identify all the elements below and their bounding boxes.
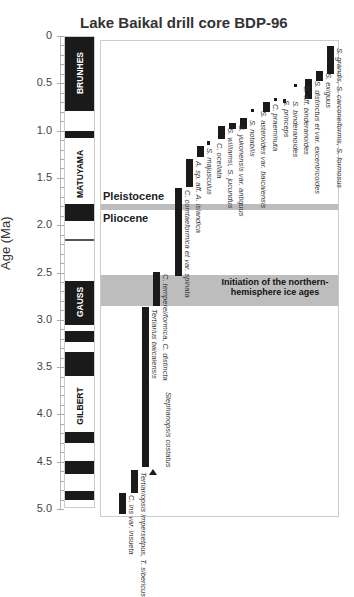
species-label: S. binderanoides — [291, 101, 300, 157]
y-tick — [57, 83, 64, 84]
normal-polarity-interval — [65, 432, 94, 442]
y-tick — [57, 320, 64, 321]
y-tick-label: 1.5 — [22, 171, 52, 183]
y-tick — [57, 462, 64, 463]
range-bar — [316, 71, 323, 81]
pliocene-label: Pliocene — [103, 212, 148, 224]
pleistocene-pliocene-boundary — [101, 204, 338, 210]
species-label: S. princeps — [282, 100, 291, 138]
chron-label-gilbert: GILBERT — [75, 387, 85, 424]
y-tick-label: 4.0 — [22, 407, 52, 419]
species-label: C. temperei/formica, C. distincta — [161, 274, 170, 381]
pleistocene-label: Pleistocene — [103, 190, 164, 202]
species-label: C. praeminuta — [271, 104, 280, 151]
range-bar — [251, 109, 254, 112]
normal-polarity-interval — [65, 204, 94, 221]
species-label: S. asteroides var. baicalensis — [259, 111, 268, 208]
range-bar — [153, 272, 160, 306]
normal-polarity-interval — [65, 331, 94, 341]
species-label: S. majusculus — [205, 148, 214, 195]
chron-label-matuyama: MATUYAMA — [75, 150, 85, 198]
normal-polarity-interval — [65, 491, 94, 500]
species-label: S. distinctus et var. excentricoides — [313, 81, 322, 194]
y-tick-label: 4.5 — [22, 455, 52, 467]
plot-area: Initiation of the northern-hemisphere ic… — [100, 40, 339, 517]
species-label: C. comtaeformica et var. spinata — [183, 190, 192, 298]
range-bar — [142, 307, 149, 468]
species-label: S. grandis, S. carconeiformis, S. formos… — [335, 48, 344, 188]
normal-polarity-interval — [65, 461, 94, 474]
normal-polarity-interval — [65, 352, 94, 376]
chart-title: Lake Baikal drill core BDP-96 — [80, 14, 288, 31]
y-tick — [57, 367, 64, 368]
range-bar — [207, 141, 210, 145]
range-bar — [327, 46, 334, 73]
y-tick-label: 1.0 — [22, 124, 52, 136]
species-label: S. notabilis — [248, 120, 257, 157]
y-axis-label: Age (Ma) — [0, 217, 13, 270]
y-tick-label: 3.5 — [22, 360, 52, 372]
y-tick-label: 2.0 — [22, 218, 52, 230]
species-label: Tertiarius baicalensis — [150, 309, 159, 379]
species-label: Stephanopsis costatus — [164, 392, 173, 467]
species-label: Tertiariopsis impersetpus, T. sibericus — [139, 472, 148, 597]
y-tick-label: 0 — [22, 29, 52, 41]
chron-label-gauss: GAUSS — [75, 287, 85, 317]
y-tick — [57, 273, 64, 274]
range-bar — [131, 470, 138, 493]
y-tick-label: 2.5 — [22, 266, 52, 278]
y-tick — [57, 178, 64, 179]
y-tick — [57, 414, 64, 415]
y-tick — [57, 225, 64, 226]
range-bar — [218, 126, 225, 139]
range-bar — [175, 188, 182, 276]
species-label: A. sp. aff. A. islandica — [194, 161, 203, 233]
polarity-column: BRUNHESMATUYAMAGAUSSGILBERT — [64, 36, 95, 508]
normal-polarity-interval — [65, 239, 94, 241]
ice-age-label: Initiation of the northern-hemisphere ic… — [211, 277, 339, 297]
range-bar — [274, 98, 277, 101]
y-tick-label: 3.0 — [22, 313, 52, 325]
species-label: S. yukonensis var. antiquus — [237, 125, 246, 216]
y-tick-label: 5.0 — [22, 502, 52, 514]
species-label: C. ocellata — [215, 143, 224, 178]
range-bar — [119, 493, 126, 514]
y-minor-tick — [60, 509, 64, 510]
species-label: C. ins var. insueta — [127, 495, 136, 555]
range-bar — [186, 159, 193, 187]
range-bar — [294, 84, 297, 87]
y-tick-label: 0.5 — [22, 76, 52, 88]
chron-label-brunhes: BRUNHES — [75, 52, 85, 94]
species-label: S. exiguus — [324, 73, 333, 108]
species-label: S. aff. binderanoides — [302, 86, 311, 155]
species-label: S. williamsi, S. jucundus — [226, 128, 235, 208]
y-tick — [57, 36, 64, 37]
range-bar — [197, 146, 204, 157]
arrow-icon — [149, 469, 157, 475]
normal-polarity-interval — [65, 131, 94, 139]
